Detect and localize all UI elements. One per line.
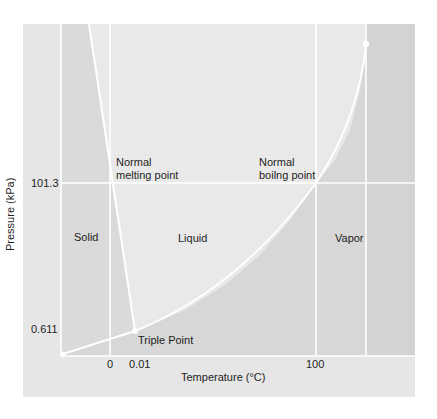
critical-point-marker	[363, 41, 369, 47]
x-tick-0: 0	[107, 358, 113, 371]
y-axis-label: Pressure (kPa)	[4, 178, 16, 251]
y-tick-101: 101.3	[31, 177, 59, 190]
solid-region-label: Solid	[74, 231, 98, 244]
normal-boiling-label-2: boilng point	[259, 169, 315, 182]
supercritical-strip	[367, 24, 415, 356]
x-tick-001: 0.01	[129, 358, 150, 371]
y-tick-0611: 0.611	[31, 323, 58, 336]
phase-diagram	[0, 0, 437, 419]
liquid-region-label: Liquid	[178, 232, 207, 245]
vapor-region-label: Vapor	[335, 232, 364, 245]
normal-boiling-label-1: Normal	[259, 156, 294, 169]
origin-marker	[60, 351, 65, 356]
triple-point-label: Triple Point	[138, 334, 193, 347]
x-tick-100: 100	[306, 358, 324, 371]
normal-melting-label-1: Normal	[116, 156, 151, 169]
normal-melting-label-2: melting point	[116, 169, 178, 182]
x-axis-label: Temperature (°C)	[181, 371, 265, 384]
